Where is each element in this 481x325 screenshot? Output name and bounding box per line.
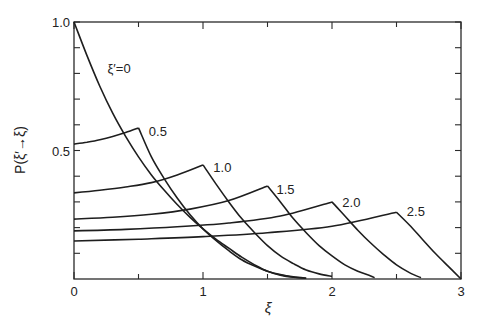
curves xyxy=(74,22,461,279)
curve-label: ξ′=0 xyxy=(108,61,131,76)
plot-frame xyxy=(74,22,461,279)
plot-svg: 01230.51.0 ξ′=00.51.01.52.02.5 ξ P(ξ′→ξ) xyxy=(0,0,481,325)
curve-label: 0.5 xyxy=(149,124,167,139)
curve-labels: ξ′=00.51.01.52.02.5 xyxy=(108,61,425,219)
y-tick-label: 1.0 xyxy=(52,15,70,30)
curve-label: 1.5 xyxy=(277,182,295,197)
x-tick-label: 2 xyxy=(328,284,335,299)
chart-container: 01230.51.0 ξ′=00.51.01.52.02.5 ξ P(ξ′→ξ) xyxy=(0,0,481,325)
x-tick-label: 3 xyxy=(457,284,464,299)
curve-1-5 xyxy=(74,186,375,278)
curve-label: 1.0 xyxy=(213,160,231,175)
x-tick-label: 1 xyxy=(199,284,206,299)
x-tick-label: 0 xyxy=(70,284,77,299)
x-axis-label: ξ xyxy=(265,299,273,316)
y-axis-label: P(ξ′→ξ) xyxy=(12,126,28,174)
y-tick-label: 0.5 xyxy=(52,144,70,159)
curve-label: 2.0 xyxy=(342,195,360,210)
curve-0-5 xyxy=(74,128,306,278)
curve-label: 2.5 xyxy=(407,204,425,219)
axes: 01230.51.0 xyxy=(52,15,465,299)
